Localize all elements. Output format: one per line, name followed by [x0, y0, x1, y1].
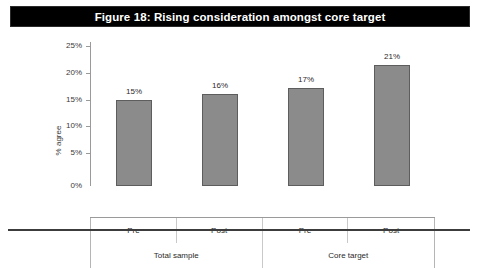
plot-area: 15% 16% 17% 21%: [91, 42, 434, 186]
bar-core-target-post[interactable]: [374, 65, 410, 186]
group-label-core-target: Core target: [263, 243, 435, 268]
y-tick-label: 25%: [42, 42, 86, 50]
figure-title-banner: Figure 18: Rising consideration amongst …: [10, 6, 470, 27]
bar-value-label: 21%: [384, 52, 400, 61]
y-tick-label: 10%: [42, 122, 86, 130]
category-axis-table: Pre Post Pre Post Total sample Core targ…: [90, 218, 435, 268]
bar-total-sample-post[interactable]: [202, 94, 238, 186]
group-row: Total sample Core target: [91, 243, 434, 268]
bar-slot: 16%: [177, 42, 263, 186]
bar-slot: 21%: [349, 42, 435, 186]
bar-value-label: 16%: [212, 81, 228, 90]
bar-slot: 15%: [91, 42, 177, 186]
page-title: Figure 18: Rising consideration amongst …: [95, 11, 386, 23]
y-tick-label: 20%: [42, 69, 86, 77]
bar-core-target-pre[interactable]: [288, 88, 324, 186]
y-tick-label: 5%: [42, 149, 86, 157]
group-label-total-sample: Total sample: [91, 243, 263, 268]
y-tick-label: 15%: [42, 96, 86, 104]
y-tick-label: 0%: [42, 182, 86, 190]
y-axis-tick-labels: 25% 20% 15% 10% 5% 0%: [42, 32, 86, 218]
bar-chart: % agree 25% 20% 15% 10% 5% 0% 15% 16% 17…: [0, 32, 479, 218]
bar-value-label: 15%: [126, 87, 142, 96]
bar-value-label: 17%: [298, 75, 314, 84]
footer-divider: [8, 229, 470, 231]
bar-slot: 17%: [263, 42, 349, 186]
bar-total-sample-pre[interactable]: [116, 100, 152, 186]
